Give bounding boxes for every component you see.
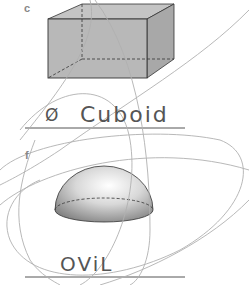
hemisphere-shape (55, 166, 153, 222)
cuboid-shape (48, 4, 174, 78)
item-label-c: c (24, 2, 30, 14)
item-label-f: f (25, 149, 29, 161)
crossed-mark: Ø (45, 105, 60, 125)
answer-text-f: OViL (60, 252, 113, 276)
worksheet-drawing (0, 0, 249, 285)
answer-text-c: Cuboid (80, 102, 169, 127)
